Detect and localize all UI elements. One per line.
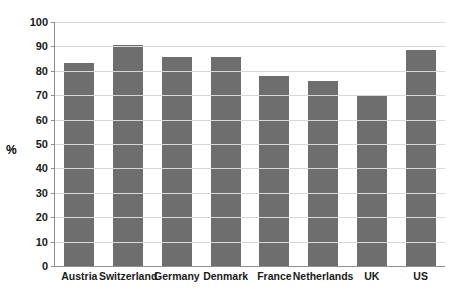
bar-series [55,22,445,266]
bar [308,81,338,266]
gridline-overlay [55,217,445,218]
bar [64,63,94,266]
y-tick-label: 20 [36,212,48,223]
gridline-overlay [55,71,445,72]
x-tick-label: UK [364,271,379,282]
y-tick-label: 100 [30,17,48,28]
y-tick-label: 30 [36,187,48,198]
gridline-overlay [55,168,445,169]
gridline-overlay [55,144,445,145]
x-tick-label: Germany [154,271,200,282]
x-tick-label: US [413,271,428,282]
gridline-overlay [55,22,445,23]
x-tick-label: Netherlands [293,271,354,282]
y-axis-title: % [6,144,17,156]
bar [211,57,241,266]
bar-chart: % 0102030405060708090100 AustriaSwitzerl… [0,0,458,296]
y-tick-label: 0 [42,261,48,272]
gridline-overlay [55,242,445,243]
bar [113,45,143,266]
bar [162,57,192,266]
gridline-overlay [55,193,445,194]
x-axis-line [54,266,445,267]
bar [406,50,436,266]
gridline-overlay [55,46,445,47]
y-tick-label: 60 [36,114,48,125]
x-tick-label: Switzerland [99,271,157,282]
plot-area: 0102030405060708090100 [55,22,445,266]
gridline-overlay [55,120,445,121]
y-tick-label: 80 [36,65,48,76]
y-tick-label: 50 [36,139,48,150]
bar [357,96,387,266]
x-axis-labels: AustriaSwitzerlandGermanyDenmarkFranceNe… [55,271,445,291]
gridline-overlay [55,95,445,96]
x-tick-label: Austria [61,271,97,282]
x-tick-label: France [257,271,291,282]
y-tick-label: 70 [36,90,48,101]
y-tick-label: 40 [36,163,48,174]
x-tick-label: Denmark [203,271,248,282]
y-tick-label: 90 [36,41,48,52]
y-tick-mark [51,266,55,267]
bar [259,76,289,266]
y-tick-label: 10 [36,236,48,247]
